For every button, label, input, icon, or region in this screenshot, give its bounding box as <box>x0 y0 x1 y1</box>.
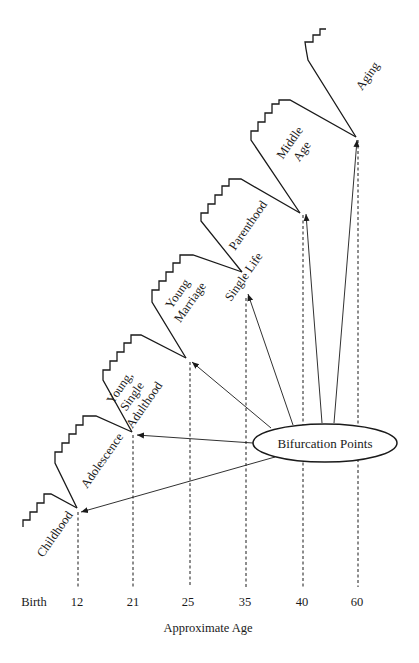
age-guide-lines <box>78 140 358 587</box>
tick-birth: Birth <box>21 595 47 609</box>
zigzag-young-marriage <box>152 255 242 358</box>
tick-60: 60 <box>351 595 364 609</box>
arrow-to-25 <box>192 362 271 428</box>
label-childhood: Childhood <box>34 508 76 560</box>
age-axis: Birth 12 21 25 35 40 60 Approximate Age <box>21 595 363 635</box>
life-stages-diagram: Bifurcation Points Childhood Adolescence… <box>0 0 419 663</box>
tick-12: 12 <box>71 595 84 609</box>
label-parenthood: Parenthood <box>226 197 271 252</box>
bifurcation-label: Bifurcation Points <box>278 436 373 451</box>
label-middle-age: Middle Age <box>274 124 319 171</box>
arrow-to-35 <box>248 294 293 425</box>
arrow-to-60 <box>334 140 357 423</box>
label-single-life: Single Life <box>222 250 266 304</box>
bifurcation-node: Bifurcation Points <box>253 424 397 462</box>
zigzag-aging <box>305 29 356 137</box>
label-young-single-adulthood: Young, Single Adulthood <box>99 361 166 431</box>
tick-21: 21 <box>127 595 140 609</box>
tick-25: 25 <box>182 595 195 609</box>
tick-35: 35 <box>239 595 252 609</box>
axis-title: Approximate Age <box>163 621 253 635</box>
label-aging: Aging <box>353 58 383 92</box>
stage-labels: Childhood Adolescence Young, Single Adul… <box>34 58 383 559</box>
arrow-to-40 <box>306 214 322 423</box>
label-adolescence: Adolescence <box>78 430 126 491</box>
arrow-to-21 <box>137 435 253 443</box>
tick-40: 40 <box>296 595 309 609</box>
